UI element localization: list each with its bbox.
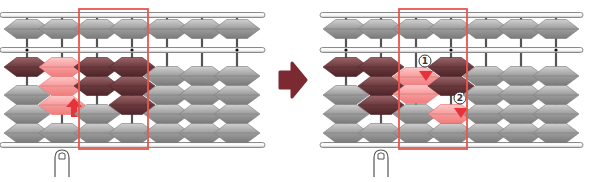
- unit-dot: [344, 48, 347, 51]
- bottom-frame-bar: [0, 143, 265, 148]
- rod-7: [214, 20, 260, 143]
- finger-icon: [55, 150, 69, 177]
- abacus-panel-after: 12: [320, 9, 583, 177]
- step-marker-label: 2: [457, 93, 463, 103]
- unit-dot: [449, 48, 452, 51]
- unit-dot: [130, 48, 133, 51]
- rod-7: [533, 20, 579, 143]
- abacus-diagram: 12: [0, 0, 597, 182]
- top-frame-bar: [320, 13, 583, 18]
- unit-dot: [554, 48, 557, 51]
- bottom-frame-bar: [320, 143, 583, 148]
- unit-dot: [25, 48, 28, 51]
- rod-6: [498, 20, 544, 143]
- finger-icon: [374, 150, 388, 177]
- rod-6: [179, 20, 225, 143]
- rod-5: [144, 20, 190, 143]
- unit-dot: [235, 48, 238, 51]
- rod-2: [358, 20, 404, 143]
- rod-5: [463, 20, 509, 143]
- abacus-panel-before: [0, 9, 265, 177]
- top-frame-bar: [0, 13, 265, 18]
- rod-3: [74, 20, 120, 143]
- right-arrow-icon: [280, 63, 306, 97]
- step-marker-label: 1: [422, 56, 428, 66]
